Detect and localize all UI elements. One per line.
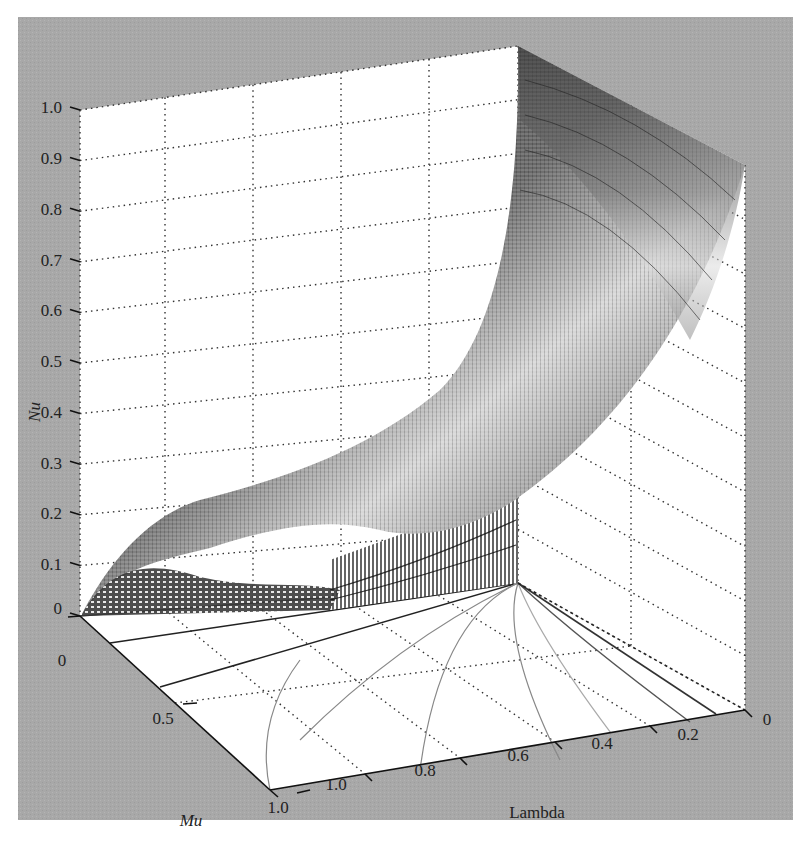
nu-tick: 0.9 (41, 149, 62, 168)
lambda-tick: 1.0 (325, 775, 346, 794)
nu-tick: 0.2 (41, 504, 62, 523)
mu-tick: 1.0 (267, 798, 288, 817)
nu-tick: 0 (54, 599, 63, 618)
lambda-tick: 0.2 (677, 725, 698, 744)
nu-tick: 1.0 (41, 98, 62, 117)
lambda-tick: 0.4 (591, 734, 613, 753)
nu-tick: 0.5 (41, 352, 62, 371)
nu-tick: 0.1 (41, 555, 62, 574)
lambda-axis-label: Lambda (509, 803, 565, 822)
nu-tick: 0.8 (41, 200, 62, 219)
nu-tick: 0.3 (41, 454, 62, 473)
nu-axis-label: Nu (25, 402, 44, 423)
mu-tick: 0.5 (152, 709, 173, 728)
nu-tick: 0.7 (41, 251, 63, 270)
nu-tick: 0.6 (41, 301, 62, 320)
lambda-tick: 0 (763, 710, 772, 729)
mu-tick: 0 (58, 651, 67, 670)
mu-axis-label: Mu (179, 811, 203, 830)
surface-plot-figure: 1.0 0.9 0.8 0.7 0.6 0.5 0.4 0.3 0.2 0.1 … (0, 0, 807, 846)
nu-tick: 0.4 (41, 403, 63, 422)
lambda-tick: 0.6 (507, 746, 528, 765)
lambda-tick: 0.8 (414, 761, 435, 780)
